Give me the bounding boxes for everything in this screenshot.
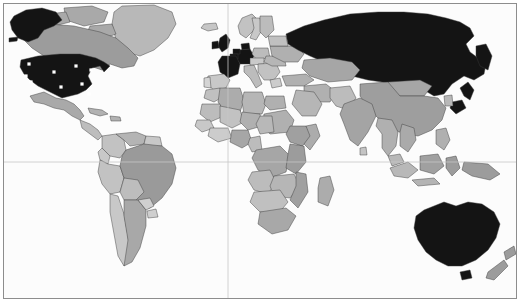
- city-marker[interactable]: San Francisco: [24, 74, 27, 77]
- city-marker[interactable]: Dallas: [59, 85, 62, 88]
- country-aleutian-islands[interactable]: [9, 37, 18, 42]
- city-marker[interactable]: Chicago: [74, 64, 77, 67]
- country-sri-lanka[interactable]: [360, 147, 367, 155]
- city-marker[interactable]: Seattle: [27, 62, 30, 65]
- city-marker[interactable]: Denver: [52, 70, 55, 73]
- city-marker[interactable]: New York: [89, 68, 92, 71]
- country-belarus-baltics[interactable]: [268, 36, 288, 46]
- country-chad[interactable]: [256, 116, 274, 134]
- city-marker[interactable]: Los Angeles: [29, 80, 32, 83]
- country-hispaniola[interactable]: [110, 116, 121, 121]
- country-korea[interactable]: [444, 95, 453, 106]
- map-canvas[interactable]: SeattleSan FranciscoLos AngelesDenverDal…: [4, 4, 516, 298]
- country-ireland[interactable]: [212, 41, 219, 49]
- country-greece[interactable]: [270, 78, 282, 88]
- city-marker[interactable]: Miami: [87, 92, 90, 95]
- country-tasmania[interactable]: [460, 270, 472, 280]
- country-libya[interactable]: [242, 92, 266, 114]
- world-map-svg[interactable]: SeattleSan FranciscoLos AngelesDenverDal…: [4, 4, 516, 298]
- world-map-screenshot: SeattleSan FranciscoLos AngelesDenverDal…: [0, 0, 523, 304]
- country-portugal[interactable]: [204, 77, 211, 88]
- country-netherlands[interactable]: [233, 49, 240, 54]
- city-marker[interactable]: Atlanta: [80, 82, 83, 85]
